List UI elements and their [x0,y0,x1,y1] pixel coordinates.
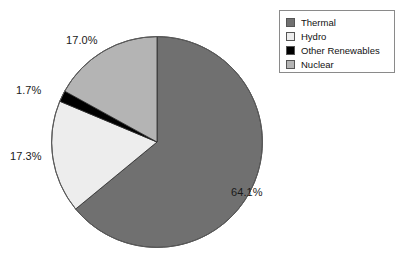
legend-label: Other Renewables [301,45,380,56]
legend-item-nuclear[interactable]: Nuclear [286,58,394,71]
legend-swatch-icon [286,46,295,55]
pie-chart [51,36,263,248]
legend-item-hydro[interactable]: Hydro [286,30,394,43]
legend-swatch-icon [286,32,295,41]
pie-chart-figure: 17.0% 1.7% 17.3% 64.1% Thermal Hydro Oth… [0,0,409,262]
slice-label-thermal: 64.1% [231,186,263,198]
legend-label: Nuclear [301,59,334,70]
legend-item-other-renewables[interactable]: Other Renewables [286,44,394,57]
slice-label-hydro: 17.3% [10,150,42,162]
slice-label-nuclear: 17.0% [66,34,98,46]
chart-legend: Thermal Hydro Other Renewables Nuclear [279,10,395,73]
slice-label-other-renewables: 1.7% [16,84,41,96]
legend-swatch-icon [286,60,295,69]
legend-swatch-icon [286,18,295,27]
legend-item-thermal[interactable]: Thermal [286,16,394,29]
pie-slices [52,37,263,248]
legend-label: Hydro [301,31,326,42]
legend-label: Thermal [301,17,336,28]
pie-svg [51,36,263,248]
